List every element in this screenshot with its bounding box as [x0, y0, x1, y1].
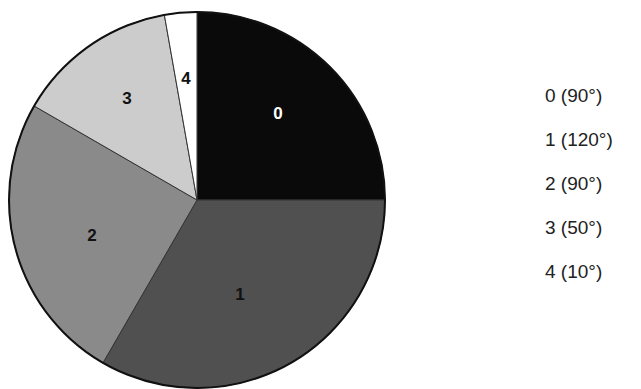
legend-item-0: 0 (90°): [545, 83, 613, 127]
slice-label-3: 3: [122, 89, 131, 108]
slice-label-0: 0: [273, 104, 282, 123]
slice-label-4: 4: [181, 69, 191, 88]
legend-item-2: 2 (90°): [545, 171, 613, 215]
slice-label-2: 2: [87, 226, 96, 245]
slice-label-1: 1: [235, 285, 244, 304]
pie-chart: 01234 0 (90°) 1 (120°) 2 (90°) 3 (50°) 4…: [0, 0, 641, 389]
legend-item-1: 1 (120°): [545, 127, 613, 171]
legend: 0 (90°) 1 (120°) 2 (90°) 3 (50°) 4 (10°): [545, 83, 613, 303]
legend-item-4: 4 (10°): [545, 259, 613, 303]
pie-slices: [9, 12, 385, 388]
pie-slice-0: [197, 12, 385, 200]
legend-item-3: 3 (50°): [545, 215, 613, 259]
